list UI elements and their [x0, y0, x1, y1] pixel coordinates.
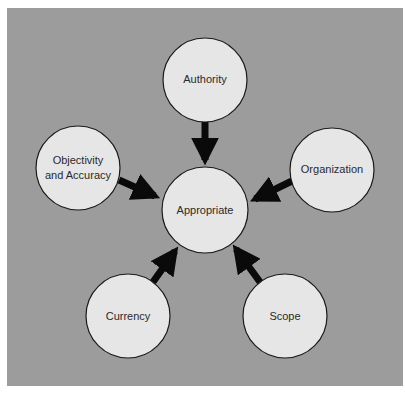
node-currency: Currency — [86, 274, 170, 358]
node-label-appropriate: Appropriate — [177, 204, 234, 216]
node-label-objectivity-line2: and Accuracy — [45, 169, 112, 181]
arrow-currency-to-appropriate — [153, 251, 175, 282]
node-appropriate: Appropriate — [162, 167, 248, 253]
criteria-diagram: Authority Organization Scope Currency Ob… — [0, 0, 405, 395]
node-scope: Scope — [243, 274, 327, 358]
node-label-objectivity-line1: Objectivity — [53, 154, 104, 166]
node-label-organization: Organization — [301, 163, 363, 175]
arrow-objectivity-to-appropriate — [119, 180, 155, 196]
node-organization: Organization — [290, 128, 374, 212]
node-authority: Authority — [163, 38, 247, 122]
arrow-scope-to-appropriate — [236, 249, 260, 282]
node-label-authority: Authority — [183, 73, 227, 85]
node-objectivity-and-accuracy: Objectivity and Accuracy — [36, 126, 120, 210]
arrow-organization-to-appropriate — [255, 181, 292, 199]
node-label-scope: Scope — [269, 310, 300, 322]
node-label-currency: Currency — [106, 310, 151, 322]
